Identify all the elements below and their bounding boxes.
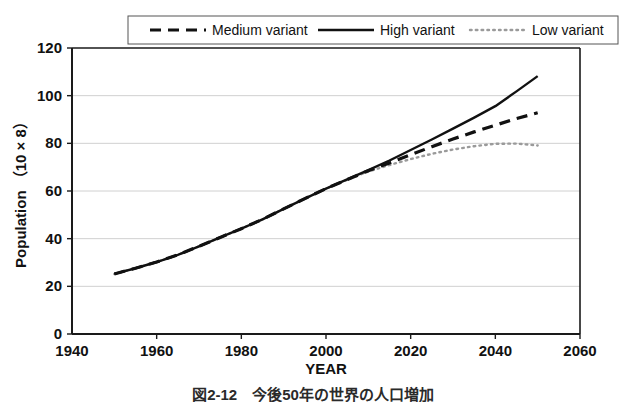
y-tick-label-20: 20	[45, 277, 62, 294]
legend-label: Medium variant	[212, 22, 308, 38]
x-tick-label-1940: 1940	[55, 342, 88, 359]
x-tick-label-2020: 2020	[394, 342, 427, 359]
figure-container: 020406080100120 194019601980200020202040…	[0, 0, 626, 402]
y-tick-label-60: 60	[45, 182, 62, 199]
y-tick-label-40: 40	[45, 230, 62, 247]
y-tick-label-0: 0	[54, 325, 62, 342]
y-axis-title: Population （10 × 8）	[12, 114, 29, 268]
population-projection-chart: 020406080100120 194019601980200020202040…	[0, 0, 626, 402]
figure-caption: 図2-12 今後50年の世界の人口増加	[192, 386, 434, 402]
y-tick-label-100: 100	[37, 87, 62, 104]
y-tick-label-80: 80	[45, 134, 62, 151]
caption-text: 図2-12 今後50年の世界の人口増加	[192, 386, 434, 402]
y-tick-label-120: 120	[37, 39, 62, 56]
x-tick-label-2000: 2000	[309, 342, 342, 359]
x-tick-label-1960: 1960	[140, 342, 173, 359]
x-tick-label-1980: 1980	[225, 342, 258, 359]
x-tick-label-2040: 2040	[479, 342, 512, 359]
x-axis-title: YEAR	[305, 360, 347, 377]
chart-legend: Medium variantHigh variantLow variant	[128, 16, 618, 44]
x-tick-label-2060: 2060	[563, 342, 596, 359]
legend-label: Low variant	[532, 22, 604, 38]
legend-label: High variant	[380, 22, 455, 38]
